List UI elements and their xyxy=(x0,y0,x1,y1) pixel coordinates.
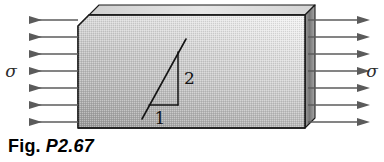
figure-container: 2 1 σ σ Fig.P2.67 xyxy=(0,0,384,162)
bar-top-face xyxy=(89,5,315,15)
slope-rise-label: 2 xyxy=(184,68,195,88)
figure-caption: Fig.P2.67 xyxy=(8,136,94,157)
slope-run-label: 1 xyxy=(155,108,166,128)
sigma-right-label: σ xyxy=(366,61,378,81)
figure-caption-number: P2.67 xyxy=(46,136,94,156)
sigma-left-label: σ xyxy=(5,61,17,81)
bar-body xyxy=(78,5,315,128)
left-stress-arrows xyxy=(29,20,78,122)
figure-caption-label: Fig. xyxy=(8,136,41,156)
bar-side-face xyxy=(305,5,315,128)
